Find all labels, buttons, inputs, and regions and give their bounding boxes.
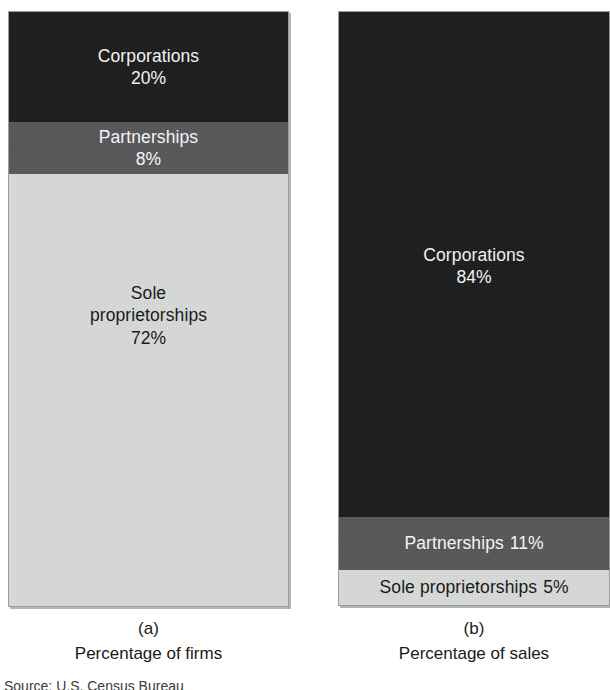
stacked-bar-figure: Corporations 20% Partnerships 8% Sole pr…: [0, 0, 610, 690]
segment-b-sole-proprietorships-label: Sole proprietorships: [380, 576, 538, 598]
caption-b-title: Percentage of sales: [338, 642, 610, 667]
caption-a: (a) Percentage of firms: [8, 617, 289, 666]
source-note: Source: U.S. Census Bureau: [4, 678, 184, 690]
segment-b-partnerships-label: Partnerships: [404, 532, 503, 554]
caption-b-letter: (b): [338, 617, 610, 642]
segment-b-partnerships-value: 11%: [510, 532, 544, 554]
segment-a-corporations-label: Corporations: [98, 45, 199, 67]
segment-a-sole-proprietorships-value: 72%: [131, 327, 166, 349]
stacked-bar-b: Corporations 84% Partnerships 11% Sole p…: [338, 11, 610, 606]
segment-a-partnerships-value: 8%: [136, 148, 161, 170]
segment-a-corporations: Corporations 20%: [9, 12, 288, 122]
segment-b-corporations-label: Corporations: [423, 244, 524, 266]
segment-a-sole-proprietorships-label: Sole proprietorships: [90, 282, 207, 327]
segment-a-partnerships: Partnerships 8%: [9, 122, 288, 174]
segment-b-sole-proprietorships-value: 5%: [543, 576, 568, 598]
caption-a-letter: (a): [8, 617, 289, 642]
segment-b-corporations: Corporations 84%: [339, 12, 609, 517]
caption-b: (b) Percentage of sales: [338, 617, 610, 666]
segment-b-sole-proprietorships: Sole proprietorships 5%: [339, 570, 609, 605]
panel-b-percentage-of-sales: Corporations 84% Partnerships 11% Sole p…: [338, 11, 610, 606]
caption-a-title: Percentage of firms: [8, 642, 289, 667]
segment-a-partnerships-label: Partnerships: [99, 126, 198, 148]
segment-b-partnerships: Partnerships 11%: [339, 517, 609, 570]
segment-a-sole-proprietorships: Sole proprietorships 72%: [9, 174, 288, 606]
segment-a-corporations-value: 20%: [131, 67, 166, 89]
segment-b-corporations-value: 84%: [456, 266, 491, 288]
panel-a-percentage-of-firms: Corporations 20% Partnerships 8% Sole pr…: [8, 11, 289, 607]
stacked-bar-a: Corporations 20% Partnerships 8% Sole pr…: [8, 11, 289, 607]
